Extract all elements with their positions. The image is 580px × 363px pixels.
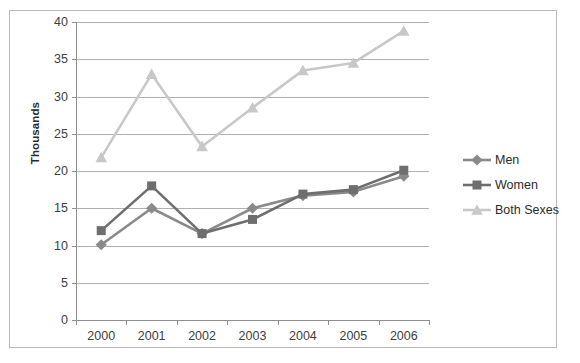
x-axis-tick-label: 2003 — [239, 329, 267, 343]
legend-label: Men — [495, 153, 519, 167]
x-axis-tick-label: 2002 — [188, 329, 216, 343]
series-line — [101, 31, 404, 158]
y-axis-tick-label: 15 — [54, 201, 68, 215]
data-series-group — [95, 25, 409, 250]
gridlines-group — [76, 23, 429, 284]
data-point-marker — [146, 68, 158, 79]
x-axis-tick-label: 2000 — [87, 329, 115, 343]
x-axis-tick-label: 2001 — [138, 329, 166, 343]
series-both-sexes — [95, 25, 409, 162]
y-axis-tick-label: 5 — [61, 276, 68, 290]
y-axis-tick-label: 10 — [54, 239, 68, 253]
data-point-marker — [247, 203, 258, 214]
line-chart-plot: 0510152025303540 20002001200220032004200… — [0, 0, 580, 363]
x-axis-tick-label: 2004 — [289, 329, 317, 343]
legend-item-men[interactable]: Men — [463, 153, 519, 167]
data-point-marker — [298, 190, 307, 199]
data-point-marker — [248, 215, 257, 224]
y-axis-tick-label: 40 — [54, 15, 68, 29]
y-axis-tick-label: 35 — [54, 52, 68, 66]
y-axis-tick-label: 0 — [61, 313, 68, 327]
series-line — [101, 170, 404, 233]
axis-ticks-group — [72, 23, 430, 326]
data-point-marker — [399, 166, 408, 175]
x-axis-tick-label: 2006 — [390, 329, 418, 343]
x-axis-tick-labels: 2000200120022003200420052006 — [87, 329, 417, 343]
chart-figure: Thousands 0510152025303540 2000200120022… — [0, 0, 580, 363]
legend-item-both-sexes[interactable]: Both Sexes — [463, 203, 559, 217]
series-women — [97, 166, 409, 238]
legend-item-women[interactable]: Women — [463, 178, 538, 192]
chart-legend: MenWomenBoth Sexes — [463, 153, 559, 217]
series-men — [96, 171, 410, 251]
legend-swatch-marker — [473, 181, 482, 190]
y-axis-tick-label: 25 — [54, 127, 68, 141]
x-axis-tick-label: 2005 — [339, 329, 367, 343]
y-axis-tick-label: 30 — [54, 90, 68, 104]
data-point-marker — [97, 226, 106, 235]
data-point-marker — [147, 181, 156, 190]
legend-swatch-marker — [471, 154, 482, 165]
legend-label: Women — [495, 178, 538, 192]
y-axis-tick-label: 20 — [54, 164, 68, 178]
y-axis-tick-labels: 0510152025303540 — [54, 15, 68, 327]
data-point-marker — [398, 25, 410, 36]
data-point-marker — [349, 185, 358, 194]
legend-label: Both Sexes — [495, 203, 559, 217]
data-point-marker — [198, 229, 207, 238]
